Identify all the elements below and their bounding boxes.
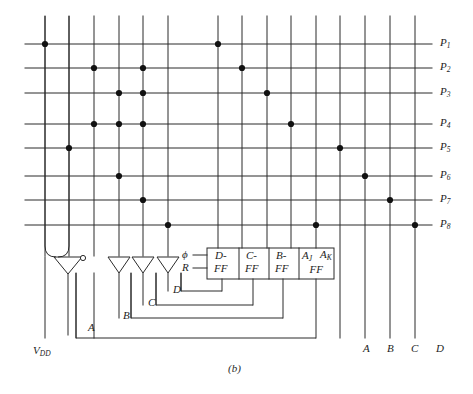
product-line-label-1: P1: [440, 37, 450, 50]
connection-dot-p8-c15: [412, 222, 418, 228]
connection-dot-p5-c12: [337, 145, 343, 151]
connection-dot-p4-c5: [140, 121, 146, 127]
ff-cell-bottom-a-ff: FF: [310, 264, 323, 275]
product-line-label-5: P5: [440, 141, 450, 154]
ff-cell-bottom-d-ff: FF: [214, 263, 227, 274]
product-line-label-6: P6: [440, 169, 450, 182]
connection-dot-p2-c3: [91, 65, 97, 71]
ff-cell-top-b-ff: B-: [276, 250, 286, 261]
product-line-label-4: P4: [440, 117, 450, 130]
vdd-bracket-left: [45, 16, 56, 257]
connection-dot-p7-c14: [387, 197, 393, 203]
connection-dot-p4-c4: [116, 121, 122, 127]
feedback-a: A: [88, 322, 95, 333]
product-line-label-3: P3: [440, 86, 450, 99]
feedback-b: B: [123, 310, 130, 321]
pla-circuit-figure: P1P2P3P4P5P6P7P8D-FFC-FFB-FFAJAKFFϕRABCD…: [0, 0, 473, 394]
ff-cell-bottom-b-ff: FF: [275, 263, 288, 274]
connection-dot-p6-c13: [362, 173, 368, 179]
feedback-bus-d: [181, 273, 222, 291]
supply-vdd: VDD: [33, 345, 51, 358]
connection-dot-p4-c10: [288, 121, 294, 127]
connection-dot-p3-c4: [116, 90, 122, 96]
ff-cell-bottom-c-ff: FF: [245, 263, 258, 274]
connection-dot-p6-c4: [116, 173, 122, 179]
grid-layer: [25, 16, 432, 338]
connection-dot-p1-c7: [215, 41, 221, 47]
product-line-label-7: P7: [440, 193, 450, 206]
reset-input-label: R: [182, 262, 189, 273]
connection-dot-p3-c5: [140, 90, 146, 96]
inverter-c-triangle: [157, 257, 179, 273]
output-a: A: [363, 343, 370, 354]
connection-dot-p2-c5: [140, 65, 146, 71]
product-line-label-2: P2: [440, 61, 450, 74]
ff-cell-top-c-ff: C-: [246, 250, 257, 261]
connection-dot-p5-c2: [66, 145, 72, 151]
ff-cell-top-d-ff: D-: [215, 250, 227, 261]
vdd-bracket-right: [58, 16, 69, 257]
clock-input-label: ϕ: [182, 249, 188, 260]
connection-dot-p8-c6: [165, 222, 171, 228]
ff-cell-aj-label: AJ: [302, 250, 312, 263]
connection-dot-p1-c1: [42, 41, 48, 47]
connection-dot-p7-c5: [140, 197, 146, 203]
vdd-inverter-triangle: [54, 257, 82, 274]
ff-cell-ak-label: AK: [320, 249, 332, 262]
output-b: B: [387, 343, 394, 354]
product-line-label-8: P8: [440, 218, 450, 231]
feedback-c: C: [148, 297, 155, 308]
connection-dot-p2-c8: [239, 65, 245, 71]
inverter-a-triangle: [108, 257, 130, 273]
connection-dot-p8-c11: [313, 222, 319, 228]
connection-dot-p3-c9: [264, 90, 270, 96]
connection-dot-p4-c3: [91, 121, 97, 127]
output-d: D: [436, 343, 444, 354]
circuit-schematic: [0, 0, 473, 394]
figure-caption: (b): [228, 362, 241, 374]
output-c: C: [411, 343, 418, 354]
feedback-bus-c: [156, 273, 253, 305]
feedback-d: D: [173, 284, 181, 295]
inverter-b-triangle: [132, 257, 154, 273]
inverter-bubble-icon: [80, 255, 85, 260]
